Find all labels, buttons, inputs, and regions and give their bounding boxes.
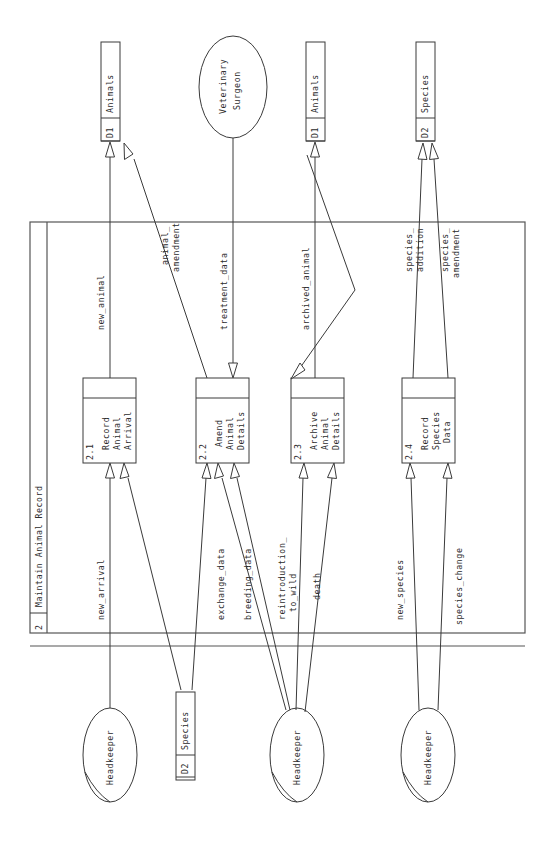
flow-treatment-data [229, 138, 238, 378]
datastore-label: Species [420, 74, 430, 113]
datastore-id: D2 [180, 763, 190, 774]
entity-label: Headkeeper [423, 730, 433, 785]
boundary-id: 2 [34, 624, 44, 630]
process-label-line3: Arrival [123, 411, 133, 450]
process-label-line3: Details [331, 411, 341, 450]
dfd-svg: .ln{stroke:#3a3a3a;stroke-width:1;fill:n… [0, 0, 556, 841]
process-label-line1: Record [420, 417, 430, 450]
process-id: 2.4 [404, 443, 414, 460]
flow-label: new_arrival [96, 559, 106, 620]
flow-label-line2: amendment [171, 222, 181, 272]
flow-label-line1: species_ [440, 228, 450, 272]
flow-label: death [312, 572, 322, 600]
datastore-id: D2 [420, 127, 430, 138]
process-id: 2.1 [85, 443, 95, 460]
dfd-canvas: .ln{stroke:#3a3a3a;stroke-width:1;fill:n… [0, 0, 556, 841]
datastore-label: Animals [105, 74, 115, 113]
datastore-id: D1 [310, 127, 320, 138]
process-label-line2: Animal [225, 417, 235, 450]
process-label-line1: Archive [309, 411, 319, 450]
entity-label: Headkeeper [105, 730, 115, 785]
flow-label-line1: reintroduction_ [277, 537, 287, 620]
flow-new-animal [106, 142, 115, 378]
flow-label: new_species [395, 559, 405, 620]
flow-label: exchange_data [216, 548, 226, 620]
datastore-label: Animals [310, 74, 320, 113]
flow-species-to-2-2 [192, 463, 211, 690]
process-label-line2: Species [431, 411, 441, 450]
process-label-line2: Animal [112, 417, 122, 450]
process-label-line2: Animal [320, 417, 330, 450]
flow-species-to-2-1 [120, 463, 181, 690]
datastore-label: Species [180, 711, 190, 750]
datastore-id: D1 [105, 127, 115, 138]
flow-new-arrival [106, 463, 115, 708]
flow-label-line1: animal_ [160, 226, 170, 265]
flow-label: treatment_data [219, 253, 229, 330]
process-label-line3: Details [236, 411, 246, 450]
entity-label: Headkeeper [292, 730, 302, 785]
flow-species-change [438, 463, 452, 710]
flow-label-line2: to_wild [288, 573, 298, 612]
flow-label-line1: species_ [404, 228, 414, 272]
flow-label: archived_animal [301, 247, 311, 330]
entity-label-line1: Veterinary [218, 59, 228, 114]
process-id: 2.3 [293, 443, 303, 460]
boundary-label: Maintain Animal Record [34, 485, 44, 607]
flow-label: breeding_data [243, 548, 253, 620]
process-label-line1: Amend [214, 419, 224, 447]
process-label-line3: Data [442, 421, 452, 443]
flow-label: species_change [454, 548, 464, 625]
entity-label-line2: Surgeon [232, 71, 242, 110]
flow-label-line2: amendment [451, 228, 461, 278]
flow-label: new_animal [96, 275, 106, 330]
flow-new-species [406, 463, 419, 710]
process-label-line1: Record [101, 417, 111, 450]
flow-label-line2: addition [415, 228, 425, 272]
process-id: 2.2 [198, 443, 208, 460]
